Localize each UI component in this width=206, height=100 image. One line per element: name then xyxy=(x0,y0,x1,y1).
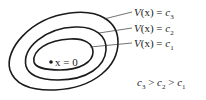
origin-label: x = 0 xyxy=(55,56,78,68)
level-curve-c2 xyxy=(26,27,107,80)
origin-point xyxy=(49,60,53,64)
label-c1: V(x) = c1 xyxy=(134,37,174,52)
leader-line-c1 xyxy=(90,43,132,47)
inequality-label: c3 > c2 > c1 xyxy=(137,76,186,91)
label-c3: V(x) = c3 xyxy=(134,6,174,21)
label-c2: V(x) = c2 xyxy=(134,22,174,37)
lyapunov-level-set-diagram: V(x) = c3 V(x) = c2 V(x) = c1 x = 0 c3 >… xyxy=(0,0,206,100)
leader-line-c3 xyxy=(104,12,132,19)
level-curve-c3 xyxy=(9,12,118,90)
